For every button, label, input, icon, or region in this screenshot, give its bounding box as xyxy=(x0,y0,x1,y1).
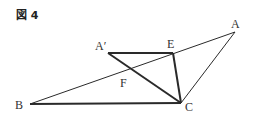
point-label-A: A xyxy=(231,17,240,31)
segment-EC xyxy=(173,53,181,103)
point-label-F: F xyxy=(120,76,127,90)
point-label-B: B xyxy=(15,98,23,112)
segment-BA xyxy=(30,32,235,104)
segment-BC xyxy=(30,103,181,104)
point-label-E: E xyxy=(167,37,174,51)
point-label-A-prime: A′ xyxy=(95,39,107,53)
segment-AprimeC xyxy=(108,53,181,103)
point-label-C: C xyxy=(185,100,193,114)
segment-AC xyxy=(181,32,235,103)
geometry-diagram: A A′ E B C F xyxy=(0,0,256,119)
